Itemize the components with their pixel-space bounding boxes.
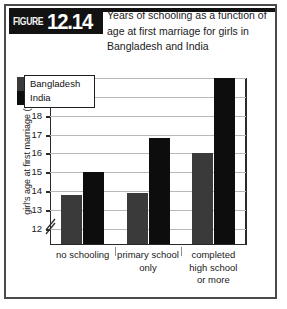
y-tick-mark	[46, 191, 50, 193]
figure-header: FIGURE 12.14 Years of schooling as a fun…	[6, 6, 275, 64]
bar-bangladesh-0	[61, 195, 82, 244]
bar-india-2	[214, 78, 235, 244]
figure-title: Years of schooling as a function of age …	[107, 8, 271, 55]
y-tick-label: 15	[16, 166, 42, 177]
y-tick-mark	[46, 210, 50, 212]
bar-bangladesh-1	[127, 193, 148, 244]
y-tick-label: 14	[16, 185, 42, 196]
figure-badge: FIGURE 12.14	[9, 8, 103, 34]
y-tick-mark	[46, 153, 50, 155]
bar-bangladesh-2	[192, 153, 213, 244]
y-tick-label: 18	[16, 110, 42, 121]
figure-badge-word: FIGURE	[13, 15, 43, 27]
y-tick-label: 16	[16, 147, 42, 158]
legend-label: Bangladesh	[30, 78, 80, 89]
axis-break-icon	[44, 216, 58, 236]
bar-india-0	[83, 172, 104, 244]
plot-right-edge	[245, 78, 247, 245]
y-tick-label: 12	[16, 223, 42, 234]
y-tick-label: 17	[16, 129, 42, 140]
chart-area: girl's age at first marriage (years) 121…	[6, 64, 275, 297]
figure-frame: FIGURE 12.14 Years of schooling as a fun…	[4, 4, 277, 299]
legend: BangladeshIndia	[24, 75, 95, 108]
y-tick-mark	[46, 172, 50, 174]
x-category-label: completedhigh schoolor more	[169, 249, 257, 287]
y-tick-mark	[46, 135, 50, 137]
y-tick-mark	[46, 116, 50, 118]
bar-india-1	[149, 138, 170, 244]
legend-label: India	[30, 92, 51, 103]
figure-badge-number: 12.14	[47, 9, 92, 34]
y-tick-label: 13	[16, 204, 42, 215]
